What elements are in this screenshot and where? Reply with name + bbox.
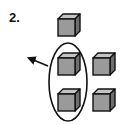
cube-icon-oval-lower [58, 89, 80, 111]
cube-icon-oval-upper [58, 53, 80, 75]
arrow-icon [31, 59, 48, 66]
cube-icon-right-upper [93, 53, 115, 75]
cube-icon-top [58, 14, 80, 36]
cube-icon-right-lower [93, 89, 115, 111]
cube-diagram [0, 0, 125, 125]
